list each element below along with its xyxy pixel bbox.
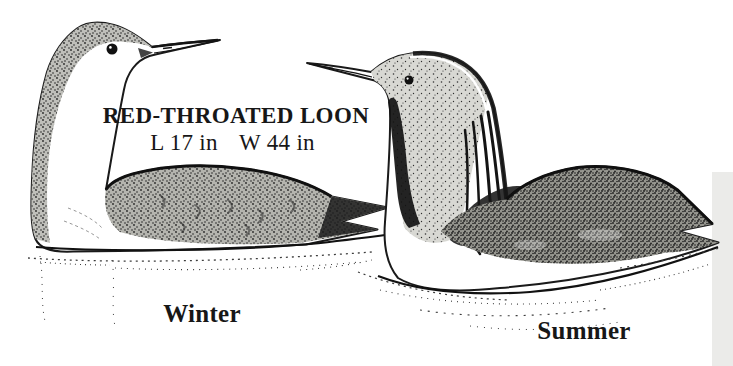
length-measurement: L 17 in [150,130,218,155]
summer-loon-eye [405,76,414,85]
scan-edge-shadow [712,172,733,366]
winter-loon-eye [107,44,118,55]
loon-illustration: RED-THROATED LOON L 17 in W 44 in Winter… [0,0,733,366]
winter-label: Winter [163,300,241,327]
figure-title: RED-THROATED LOON [103,103,369,128]
wingspan-measurement: W 44 in [239,130,315,155]
summer-label: Summer [537,317,630,344]
field-guide-page: RED-THROATED LOON L 17 in W 44 in Winter… [0,0,733,366]
